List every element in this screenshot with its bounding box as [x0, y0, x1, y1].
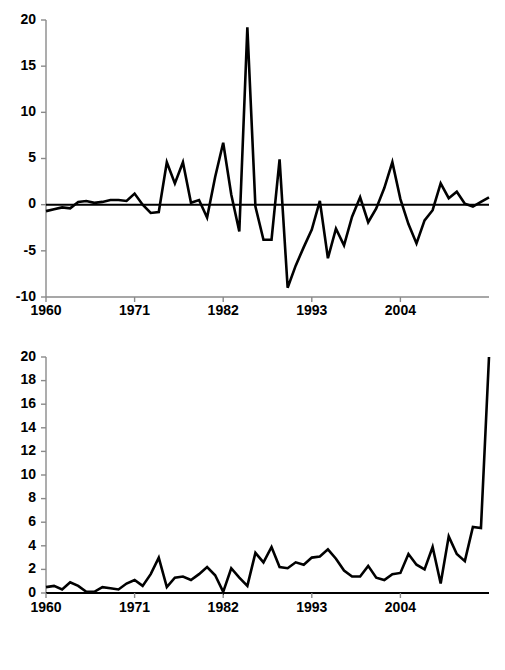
- y-axis-tick-label: 16: [20, 395, 36, 411]
- x-axis-tick-label: 1982: [208, 599, 239, 615]
- x-axis-tick-label: 1960: [30, 599, 61, 615]
- x-axis-tick-label: 2004: [385, 599, 416, 615]
- x-axis-tick-label: 1971: [119, 302, 150, 318]
- y-axis-tick-label: 8: [28, 489, 36, 505]
- data-series-line: [46, 27, 489, 287]
- y-axis-tick-label: 0: [28, 195, 36, 211]
- y-axis-tick-label: 20: [20, 11, 36, 27]
- two-panel-line-chart-figure: -10-50510152019601971198219932004 024681…: [0, 0, 505, 670]
- y-axis-tick-label: 4: [28, 537, 36, 553]
- chart-panel-bottom: 0246810121416182019601971198219932004: [0, 335, 505, 670]
- x-axis-tick-label: 1993: [296, 302, 327, 318]
- x-axis-tick-label: 2004: [385, 302, 416, 318]
- x-axis-tick-label: 1960: [30, 302, 61, 318]
- y-axis-tick-label: 0: [28, 584, 36, 600]
- y-axis-tick-label: 5: [28, 149, 36, 165]
- chart-panel-top: -10-50510152019601971198219932004: [0, 0, 505, 335]
- x-axis-tick-label: 1993: [296, 599, 327, 615]
- y-axis-tick-label: 2: [28, 560, 36, 576]
- x-axis-tick-label: 1982: [208, 302, 239, 318]
- y-axis-tick-label: 10: [20, 466, 36, 482]
- x-axis-tick-label: 1971: [119, 599, 150, 615]
- y-axis-tick-label: 15: [20, 57, 36, 73]
- y-axis-tick-label: 14: [20, 419, 36, 435]
- y-axis-tick-label: 12: [20, 442, 36, 458]
- data-series-line: [46, 357, 489, 592]
- y-axis-tick-label: -5: [24, 242, 37, 258]
- y-axis-tick-label: 20: [20, 348, 36, 364]
- top-chart-plot: -10-50510152019601971198219932004: [0, 0, 505, 335]
- bottom-chart-plot: 0246810121416182019601971198219932004: [0, 335, 505, 670]
- y-axis-tick-label: -10: [16, 288, 36, 304]
- y-axis-tick-label: 18: [20, 371, 36, 387]
- y-axis-tick-label: 10: [20, 103, 36, 119]
- y-axis-tick-label: 6: [28, 513, 36, 529]
